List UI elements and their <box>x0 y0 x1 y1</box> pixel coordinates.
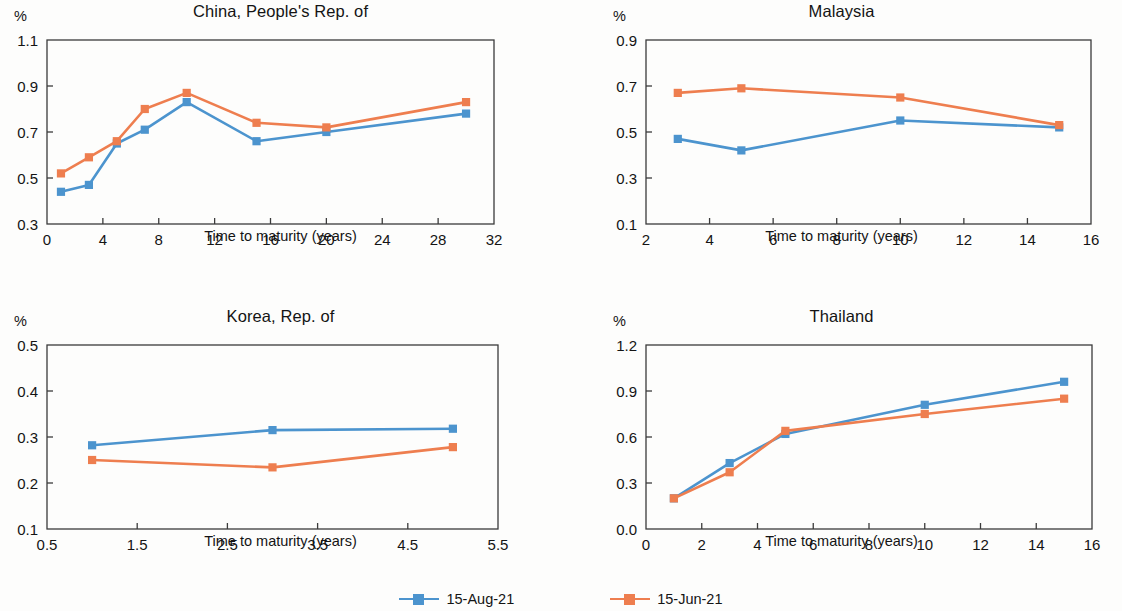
data-point-marker <box>462 110 470 118</box>
data-point-marker <box>252 119 260 127</box>
chart-grid: China, People's Rep. of % 0.30.50.70.91.… <box>0 0 1122 611</box>
plot-area-thailand: 0.00.30.60.91.20246810121416 <box>561 305 1122 555</box>
x-axis-title-malaysia: Time to maturity (years) <box>561 228 1122 244</box>
data-point-marker <box>896 93 904 101</box>
data-point-marker <box>737 146 745 154</box>
y-tick-label: 0.2 <box>17 475 38 492</box>
data-point-marker <box>183 89 191 97</box>
legend-label-jun: 15-Jun-21 <box>657 591 722 607</box>
data-point-marker <box>88 441 96 449</box>
data-point-marker <box>737 84 745 92</box>
y-tick-label: 0.3 <box>616 170 637 187</box>
legend-label-aug: 15-Aug-21 <box>446 591 514 607</box>
data-point-marker <box>462 98 470 106</box>
data-point-marker <box>921 401 929 409</box>
chart-panel-korea: Korea, Rep. of % 0.10.20.30.40.50.51.52.… <box>0 305 561 585</box>
data-point-marker <box>674 135 682 143</box>
data-point-marker <box>252 137 260 145</box>
data-point-marker <box>268 426 276 434</box>
y-tick-label: 1.2 <box>616 337 637 354</box>
y-tick-label: 0.5 <box>616 124 637 141</box>
data-point-marker <box>1060 378 1068 386</box>
x-axis-title-korea: Time to maturity (years) <box>0 533 561 549</box>
data-point-marker <box>57 188 65 196</box>
data-point-marker <box>85 153 93 161</box>
data-point-marker <box>449 443 457 451</box>
legend: 15-Aug-21 15-Jun-21 <box>0 586 1122 611</box>
data-point-marker <box>113 137 121 145</box>
data-point-marker <box>322 123 330 131</box>
legend-swatch-aug <box>399 592 439 606</box>
data-point-marker <box>141 126 149 134</box>
data-point-marker <box>781 427 789 435</box>
chart-panel-china: China, People's Rep. of % 0.30.50.70.91.… <box>0 0 561 295</box>
series-line-15-jun-21 <box>61 93 466 173</box>
y-tick-label: 0.3 <box>616 475 637 492</box>
data-point-marker <box>674 89 682 97</box>
data-point-marker <box>726 459 734 467</box>
y-tick-label: 0.7 <box>616 78 637 95</box>
data-point-marker <box>449 425 457 433</box>
y-tick-label: 0.3 <box>17 429 38 446</box>
series-line-15-aug-21 <box>61 102 466 192</box>
y-tick-label: 0.9 <box>616 32 637 49</box>
y-tick-label: 0.6 <box>616 429 637 446</box>
data-point-marker <box>670 494 678 502</box>
data-point-marker <box>141 105 149 113</box>
data-point-marker <box>726 468 734 476</box>
y-tick-label: 0.5 <box>17 337 38 354</box>
data-point-marker <box>896 116 904 124</box>
legend-swatch-jun <box>610 592 650 606</box>
series-line-15-aug-21 <box>674 382 1064 499</box>
chart-panel-malaysia: Malaysia % 0.10.30.50.70.9246810121416 T… <box>561 0 1122 295</box>
series-line-15-aug-21 <box>678 121 1059 151</box>
series-line-15-jun-21 <box>674 399 1064 499</box>
data-point-marker <box>268 463 276 471</box>
data-point-marker <box>183 98 191 106</box>
data-point-marker <box>921 410 929 418</box>
y-tick-label: 0.5 <box>17 170 38 187</box>
y-tick-label: 0.7 <box>17 124 38 141</box>
y-tick-label: 1.1 <box>17 32 38 49</box>
y-tick-label: 0.4 <box>17 383 38 400</box>
data-point-marker <box>1055 121 1063 129</box>
x-axis-title-thailand: Time to maturity (years) <box>561 533 1122 549</box>
legend-item-aug[interactable]: 15-Aug-21 <box>399 591 514 607</box>
plot-area-china: 0.30.50.70.91.1048121620242832 <box>0 0 561 250</box>
x-axis-title-china: Time to maturity (years) <box>0 228 561 244</box>
data-point-marker <box>1060 395 1068 403</box>
data-point-marker <box>88 456 96 464</box>
y-tick-label: 0.9 <box>17 78 38 95</box>
legend-item-jun[interactable]: 15-Jun-21 <box>610 591 722 607</box>
data-point-marker <box>57 169 65 177</box>
y-tick-label: 0.9 <box>616 383 637 400</box>
data-point-marker <box>85 181 93 189</box>
series-line-15-jun-21 <box>678 88 1059 125</box>
plot-area-korea: 0.10.20.30.40.50.51.52.53.54.55.5 <box>0 305 561 555</box>
plot-area-malaysia: 0.10.30.50.70.9246810121416 <box>561 0 1122 250</box>
chart-panel-thailand: Thailand % 0.00.30.60.91.20246810121416 … <box>561 305 1122 585</box>
